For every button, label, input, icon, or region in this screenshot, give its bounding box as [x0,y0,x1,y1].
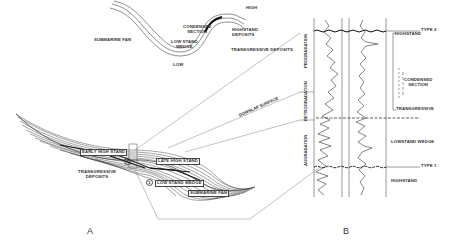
label-transgressive-deposits: TRANSGRESSIVE DEPOSITS [78,170,116,179]
label-lowstand-wedge: LOWSTAND WEDGE [391,140,434,145]
marker-2: 2 [124,158,131,165]
label-transgressive-deposits-inset: TRANSGRESSIVE DEPOSITS [231,48,293,53]
label-highstand-top: HIGHSTAND [395,32,421,37]
label-high: HIGH [246,6,257,11]
label-transgressive: TRANSGRESSIVE [396,107,434,112]
marker-1: 1 [146,179,153,186]
label-retrogradation: RETROGRADATION [303,81,308,121]
label-type-1: TYPE 1 [421,164,436,169]
depositional-wedge [16,114,255,200]
panel-b-label: B [343,226,349,236]
label-submarine-fan-inset: SUBMARINE FAN [94,38,131,43]
label-condensed-section-inset: CONDENSED SECTION [183,25,211,34]
label-condensed-section: CONDENSED SECTION [404,78,432,87]
label-aggradation: AGGRADATION [303,135,308,166]
label-type-2: TYPE 2 [421,28,436,33]
label-highstand-deposits-inset: HIGHSTAND DEPOSITS [232,28,258,37]
label-progradation: PROGRADATION [303,34,308,68]
label-early-high-stand: EARLY HIGH STAND [80,149,127,156]
panel-a-label: A [87,226,93,236]
label-highstand-bottom: HIGHSTAND [391,179,417,184]
label-submarine-fan: SUBMARINE FAN [188,190,229,197]
label-low-stand-wedge: LOW STAND WEDGE [155,180,204,187]
label-low: LOW [173,63,183,68]
label-late-high-stand: LATE HIGH STAND [156,158,200,165]
label-lowstand-wedge-inset: LOW STAND WEDGE [171,40,198,49]
diagram-artwork [0,0,452,250]
